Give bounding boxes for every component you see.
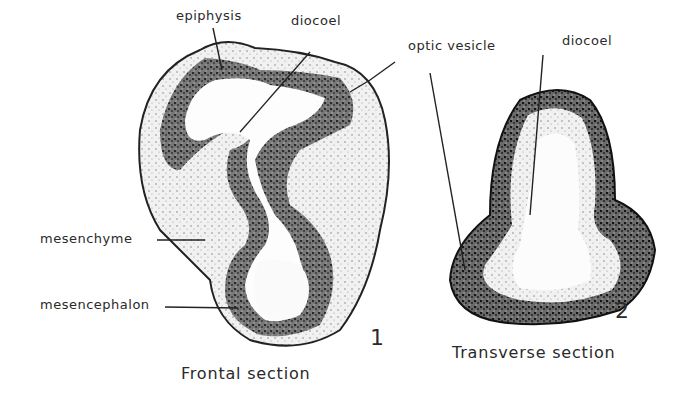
label-diocoel-fig1: diocoel [291,13,341,28]
histology-illustration [0,0,700,395]
label-diocoel-fig2: diocoel [562,33,612,48]
transverse-section-drawing [450,90,655,324]
figure-number-2: 2 [615,298,629,323]
caption-frontal-section: Frontal section [181,364,310,383]
frontal-section-drawing [139,42,389,346]
label-mesenchyme: mesenchyme [40,231,132,246]
label-epiphysis: epiphysis [176,8,242,23]
figure-number-1: 1 [370,325,384,350]
label-mesencephalon: mesencephalon [40,297,150,312]
caption-transverse-section: Transverse section [452,343,615,362]
label-optic-vesicle: optic vesicle [408,38,496,53]
